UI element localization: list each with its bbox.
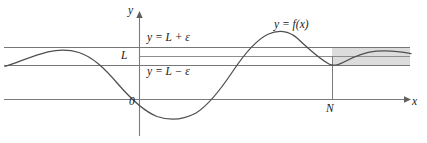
label-x-axis: x: [412, 96, 417, 108]
limit-diagram: y = L + ε y = L − ε L y = f(x) 0 N y x: [0, 0, 427, 143]
function-curve: [5, 31, 411, 119]
diagram-canvas: [0, 0, 427, 143]
label-limit-value: L: [121, 50, 127, 62]
label-upper-band: y = L + ε: [147, 32, 190, 44]
label-lower-band: y = L − ε: [147, 66, 190, 78]
y-axis-arrowhead: [136, 11, 142, 18]
label-origin: 0: [129, 96, 135, 108]
x-axis-arrowhead: [404, 96, 411, 102]
label-y-axis: y: [128, 5, 133, 17]
label-function-curve: y = f(x): [274, 19, 309, 31]
label-x-threshold: N: [326, 103, 334, 115]
